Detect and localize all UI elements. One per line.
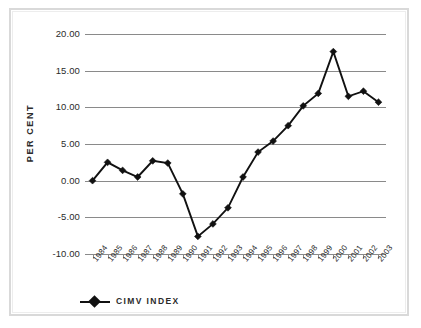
x-tick-label: 1996 xyxy=(271,243,290,263)
x-tick-label: 1997 xyxy=(286,243,305,263)
x-tick-label: 1992 xyxy=(211,243,230,263)
x-tick-label: 1990 xyxy=(181,243,200,263)
x-tick-label: 1987 xyxy=(136,243,155,263)
x-tick-label: 1984 xyxy=(91,243,110,263)
legend-label-cimv-index: CIMV INDEX xyxy=(116,296,180,306)
x-tick-label: 2002 xyxy=(361,243,380,263)
x-tick-label: 1991 xyxy=(196,243,215,263)
x-tick-label: 1994 xyxy=(241,243,260,263)
x-tick-label: 1988 xyxy=(151,243,170,263)
x-tick-label: 1995 xyxy=(256,243,275,263)
chart-page: PER CENT 20.0015.0010.005.000.00-5.00-10… xyxy=(0,0,421,328)
x-axis-tick-labels: 1984198519861987198819891990199119921993… xyxy=(0,0,421,328)
x-tick-label: 2003 xyxy=(376,243,395,263)
x-tick-label: 1993 xyxy=(226,243,245,263)
chart-legend: CIMV INDEX xyxy=(80,296,180,306)
x-tick-label: 1999 xyxy=(316,243,335,263)
x-tick-label: 1998 xyxy=(301,243,320,263)
x-tick-label: 1986 xyxy=(121,243,140,263)
x-tick-label: 1985 xyxy=(106,243,125,263)
legend-marker-icon xyxy=(80,296,110,306)
x-tick-label: 2001 xyxy=(346,243,365,263)
x-tick-label: 1989 xyxy=(166,243,185,263)
x-tick-label: 2000 xyxy=(331,243,350,263)
